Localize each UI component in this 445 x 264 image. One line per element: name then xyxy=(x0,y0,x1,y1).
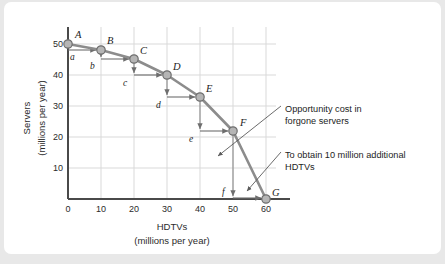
y-axis-title: Servers xyxy=(21,101,32,134)
data-point-D xyxy=(163,71,171,79)
point-label-G: G xyxy=(272,187,280,198)
x-axis-title: HDTVs xyxy=(157,221,188,232)
x-tick-10: 10 xyxy=(96,204,106,214)
data-point-labels: A B C D E F G xyxy=(74,29,280,198)
data-point-B xyxy=(97,46,105,54)
y-tick-10: 10 xyxy=(53,163,63,173)
data-point-E xyxy=(196,93,204,101)
data-point-A xyxy=(64,40,72,48)
axis-titles: Servers (millions per year) HDTVs (milli… xyxy=(21,80,210,246)
y-tick-20: 20 xyxy=(53,132,63,142)
y-tick-labels: 50 40 30 20 10 xyxy=(53,39,63,173)
point-label-C: C xyxy=(140,45,148,56)
x-axis-units: (millions per year) xyxy=(134,235,210,246)
point-label-E: E xyxy=(205,83,213,94)
point-label-F: F xyxy=(239,117,247,128)
annotation-additional-hdtvs: To obtain 10 million additional HDTVs xyxy=(247,150,406,191)
point-label-B: B xyxy=(107,35,114,46)
annotation-opportunity-cost-line2: forgone servers xyxy=(285,116,349,126)
x-tick-40: 40 xyxy=(195,204,205,214)
step-label-a: a xyxy=(70,52,75,62)
point-label-D: D xyxy=(172,61,181,72)
x-tick-20: 20 xyxy=(129,204,139,214)
step-arrows: a b c d e f xyxy=(68,44,261,198)
x-tick-labels: 0 10 20 30 40 50 60 xyxy=(65,204,271,214)
y-tick-30: 30 xyxy=(53,101,63,111)
step-label-f: f xyxy=(222,187,226,197)
x-tick-50: 50 xyxy=(228,204,238,214)
step-label-e: e xyxy=(189,134,193,144)
y-axis-units: (millions per year) xyxy=(36,80,47,156)
step-label-c: c xyxy=(123,78,128,88)
annotation-additional-hdtvs-line2: HDTVs xyxy=(285,162,315,172)
annotation-opportunity-cost-line1: Opportunity cost in xyxy=(285,104,362,114)
step-arrow-f: f xyxy=(222,131,261,198)
data-point-C xyxy=(130,55,138,63)
point-label-A: A xyxy=(74,29,82,40)
data-point-G xyxy=(262,195,270,203)
x-tick-60: 60 xyxy=(261,204,271,214)
production-possibilities-chart: 50 40 30 20 10 0 10 20 30 40 50 60 Serve… xyxy=(0,0,445,264)
y-tick-40: 40 xyxy=(53,70,63,80)
x-tick-30: 30 xyxy=(162,204,172,214)
data-point-F xyxy=(229,127,237,135)
step-label-b: b xyxy=(90,61,95,71)
step-label-d: d xyxy=(156,100,161,110)
annotation-opportunity-cost: Opportunity cost in forgone servers xyxy=(218,104,362,156)
annotation-additional-hdtvs-line1: To obtain 10 million additional xyxy=(285,150,406,160)
x-tick-0: 0 xyxy=(65,204,70,214)
y-tick-50: 50 xyxy=(53,39,63,49)
